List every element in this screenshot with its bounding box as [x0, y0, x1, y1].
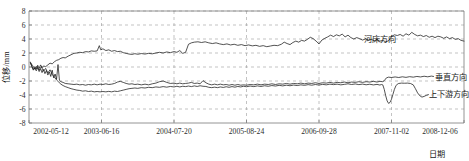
x-tick-label: 2002-05-12	[33, 127, 69, 136]
x-tick-label: 2004-07-20	[156, 127, 192, 136]
chart-plot-svg: 86420-2-4-6-8 2002-05-122003-06-162004-0…	[0, 0, 469, 161]
x-axis-tick-labels: 2002-05-122003-06-162004-07-202005-08-24…	[33, 127, 458, 136]
x-tick-label: 2008-12-06	[422, 127, 458, 136]
y-tick-label: -2	[19, 77, 26, 86]
y-tick-label: 8	[22, 7, 26, 16]
y-tick-label: 6	[22, 21, 26, 30]
series-line-2	[30, 63, 433, 85]
x-axis-title: 日期	[429, 150, 445, 159]
x-tick-label: 2007-11-02	[374, 127, 409, 136]
y-tick-label: 2	[22, 49, 26, 58]
y-tick-label: -6	[19, 105, 26, 114]
displacement-time-series-chart: 86420-2-4-6-8 2002-05-122003-06-162004-0…	[0, 0, 469, 161]
series-line-3	[30, 63, 428, 104]
y-tick-label: -4	[19, 91, 26, 100]
series-label-1: 河床方向	[364, 34, 396, 44]
x-tick-label: 2006-09-28	[301, 127, 337, 136]
y-axis-title: 位移/mm	[1, 51, 11, 83]
series-label-2: 垂直方向	[435, 72, 467, 82]
y-tick-label: 0	[22, 63, 26, 72]
data-series-group	[30, 32, 464, 103]
x-tick-label: 2003-06-16	[84, 127, 120, 136]
y-axis-tick-labels: 86420-2-4-6-8	[19, 7, 26, 128]
series-line-1	[30, 32, 464, 69]
grid-lines	[29, 11, 464, 123]
x-tick-label: 2005-08-24	[229, 127, 265, 136]
y-tick-label: -8	[19, 119, 26, 128]
y-tick-label: 4	[22, 35, 26, 44]
series-label-3: 上下游方向	[429, 89, 469, 99]
